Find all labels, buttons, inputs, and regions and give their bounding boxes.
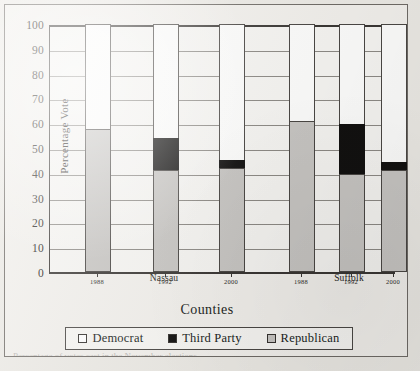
y-tick-label: 100 [10, 20, 44, 32]
figure-frame: 0102030405060708090100 Percentage Vote 1… [4, 4, 408, 357]
bar-suffolk-1992 [339, 24, 365, 272]
bar-segment-dem [289, 24, 315, 121]
black-square-icon [168, 334, 177, 343]
legend-item-republican: Republican [267, 331, 340, 346]
y-tick-label: 40 [10, 169, 44, 181]
y-tick-label: 0 [10, 268, 44, 280]
white-square-icon [78, 334, 87, 343]
bar-segment-rep [289, 121, 315, 272]
y-tick-label: 10 [10, 243, 44, 255]
bar-segment-tp [381, 162, 407, 171]
y-tick-label: 70 [10, 94, 44, 106]
bar-segment-tp [153, 138, 179, 170]
bar-segment-rep [153, 170, 179, 272]
bar-suffolk-2000 [381, 24, 407, 272]
scanned-page: 0102030405060708090100 Percentage Vote 1… [0, 0, 420, 371]
y-tick-label: 20 [10, 218, 44, 230]
x-tick-label: 1988 [77, 278, 117, 285]
bar-segment-dem [381, 24, 407, 162]
y-tick-label: 80 [10, 70, 44, 82]
legend-item-democrat: Democrat [78, 331, 143, 346]
bar-segment-rep [219, 168, 245, 272]
plot-area: 0102030405060708090100 Percentage Vote [49, 25, 395, 273]
bar-segment-rep [85, 129, 111, 272]
y-tick-label: 30 [10, 194, 44, 206]
bar-nassau-1992 [153, 24, 179, 272]
bar-segment-dem [153, 24, 179, 138]
y-tick-label: 60 [10, 119, 44, 131]
bar-segment-rep [339, 174, 365, 272]
bar-segment-dem [85, 24, 111, 129]
bar-suffolk-1988 [289, 24, 315, 272]
bar-nassau-2000 [219, 24, 245, 272]
legend-label: Republican [281, 331, 340, 346]
gray-square-icon [267, 334, 276, 343]
x-axis-title: Counties [5, 302, 409, 318]
bar-nassau-1988 [85, 24, 111, 272]
bar-segment-dem [339, 24, 365, 124]
legend: DemocratThird PartyRepublican [65, 327, 353, 350]
y-tick-label: 50 [10, 144, 44, 156]
legend-label: Third Party [182, 331, 241, 346]
y-axis-title: Percentage Vote [58, 76, 70, 196]
caption-sliver: Percentage of votes cast in the November… [13, 351, 313, 356]
bar-segment-tp [339, 124, 365, 174]
legend-item-third-party: Third Party [168, 331, 241, 346]
group-label-nassau: Nassau [119, 273, 209, 283]
bar-segment-dem [219, 24, 245, 160]
bar-segment-rep [381, 170, 407, 272]
legend-label: Democrat [92, 331, 143, 346]
group-label-suffolk: Suffolk [304, 273, 394, 283]
x-tick-label: 2000 [211, 278, 251, 285]
y-tick-label: 90 [10, 45, 44, 57]
bar-segment-tp [219, 160, 245, 167]
